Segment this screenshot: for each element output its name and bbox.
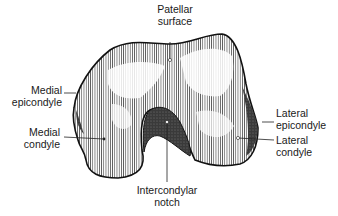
label-medial-epicondyle: Medial epicondyle [0, 84, 62, 108]
label-line: condyle [276, 146, 338, 158]
label-line: epicondyle [276, 119, 338, 131]
label-line: epicondyle [0, 96, 62, 108]
label-line: Lateral [276, 134, 338, 146]
label-line: Lateral [276, 107, 338, 119]
label-line: condyle [0, 138, 60, 150]
label-medial-condyle: Medial condyle [0, 126, 60, 150]
label-line: surface [145, 15, 205, 27]
label-line: Medial [0, 126, 60, 138]
label-intercondylar-notch: Intercondylar notch [127, 184, 207, 208]
label-line: Intercondylar [127, 184, 207, 196]
label-lateral-condyle: Lateral condyle [276, 134, 338, 158]
label-patellar-surface: Patellar surface [145, 3, 205, 27]
label-line: Patellar [145, 3, 205, 15]
label-lateral-epicondyle: Lateral epicondyle [276, 107, 338, 131]
label-line: Medial [0, 84, 62, 96]
label-line: notch [127, 196, 207, 208]
